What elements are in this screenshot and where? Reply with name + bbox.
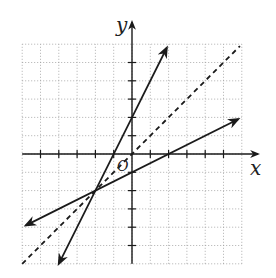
coordinate-plane: y x O (0, 0, 276, 278)
lines (22, 46, 240, 264)
line-y-x (22, 46, 240, 264)
origin-label: O (117, 158, 129, 174)
x-axis-label: x (250, 156, 261, 180)
y-axis-label: y (115, 13, 128, 37)
